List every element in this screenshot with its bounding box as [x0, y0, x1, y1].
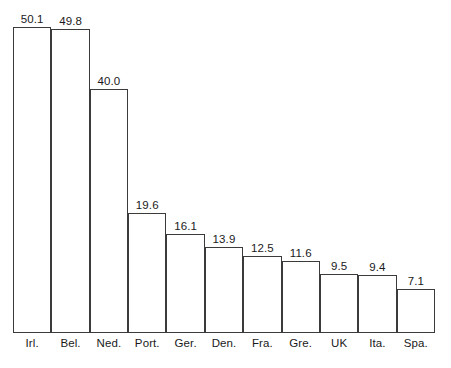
bar-value-label-7: 11.6	[283, 247, 319, 260]
x-axis-label-4: Ger.	[166, 336, 204, 350]
bar-value-label-10: 7.1	[398, 275, 434, 288]
bar-5: 13.9	[205, 247, 243, 332]
bar-1: 49.8	[51, 29, 89, 332]
plot-area: 50.1 49.8 40.0 19.6 16.1 13.9 12.5 11.6 …	[13, 0, 435, 332]
bar-6: 12.5	[243, 256, 281, 332]
x-axis-label-6: Fra.	[243, 336, 281, 350]
bar-9: 9.4	[358, 275, 396, 332]
bar-7: 11.6	[282, 261, 320, 332]
bar-0: 50.1	[13, 27, 51, 332]
x-axis-label-5: Den.	[205, 336, 243, 350]
bar-4: 16.1	[166, 234, 204, 332]
bar-value-label-0: 50.1	[14, 13, 50, 26]
bar-10: 7.1	[397, 289, 435, 332]
bar-value-label-1: 49.8	[52, 15, 88, 28]
x-axis-label-0: Irl.	[13, 336, 51, 350]
bar-value-label-9: 9.4	[359, 261, 395, 274]
bar-value-label-5: 13.9	[206, 233, 242, 246]
x-axis-label-9: Ita.	[358, 336, 396, 350]
bar-value-label-3: 19.6	[129, 199, 165, 212]
x-axis-label-2: Ned.	[90, 336, 128, 350]
bar-value-label-6: 12.5	[244, 242, 280, 255]
x-axis-line	[13, 332, 435, 333]
bar-chart: 50.1 49.8 40.0 19.6 16.1 13.9 12.5 11.6 …	[0, 0, 451, 368]
bar-2: 40.0	[90, 89, 128, 333]
x-axis-label-7: Gre.	[282, 336, 320, 350]
bar-8: 9.5	[320, 274, 358, 332]
x-axis-label-3: Port.	[128, 336, 166, 350]
x-axis-category-labels: Irl. Bel. Ned. Port. Ger. Den. Fra. Gre.…	[13, 334, 435, 354]
bar-value-label-4: 16.1	[167, 220, 203, 233]
x-axis-label-10: Spa.	[397, 336, 435, 350]
bar-value-label-8: 9.5	[321, 260, 357, 273]
bar-value-label-2: 40.0	[91, 75, 127, 88]
bar-3: 19.6	[128, 213, 166, 332]
x-axis-label-1: Bel.	[51, 336, 89, 350]
x-axis-label-8: UK	[320, 336, 358, 350]
